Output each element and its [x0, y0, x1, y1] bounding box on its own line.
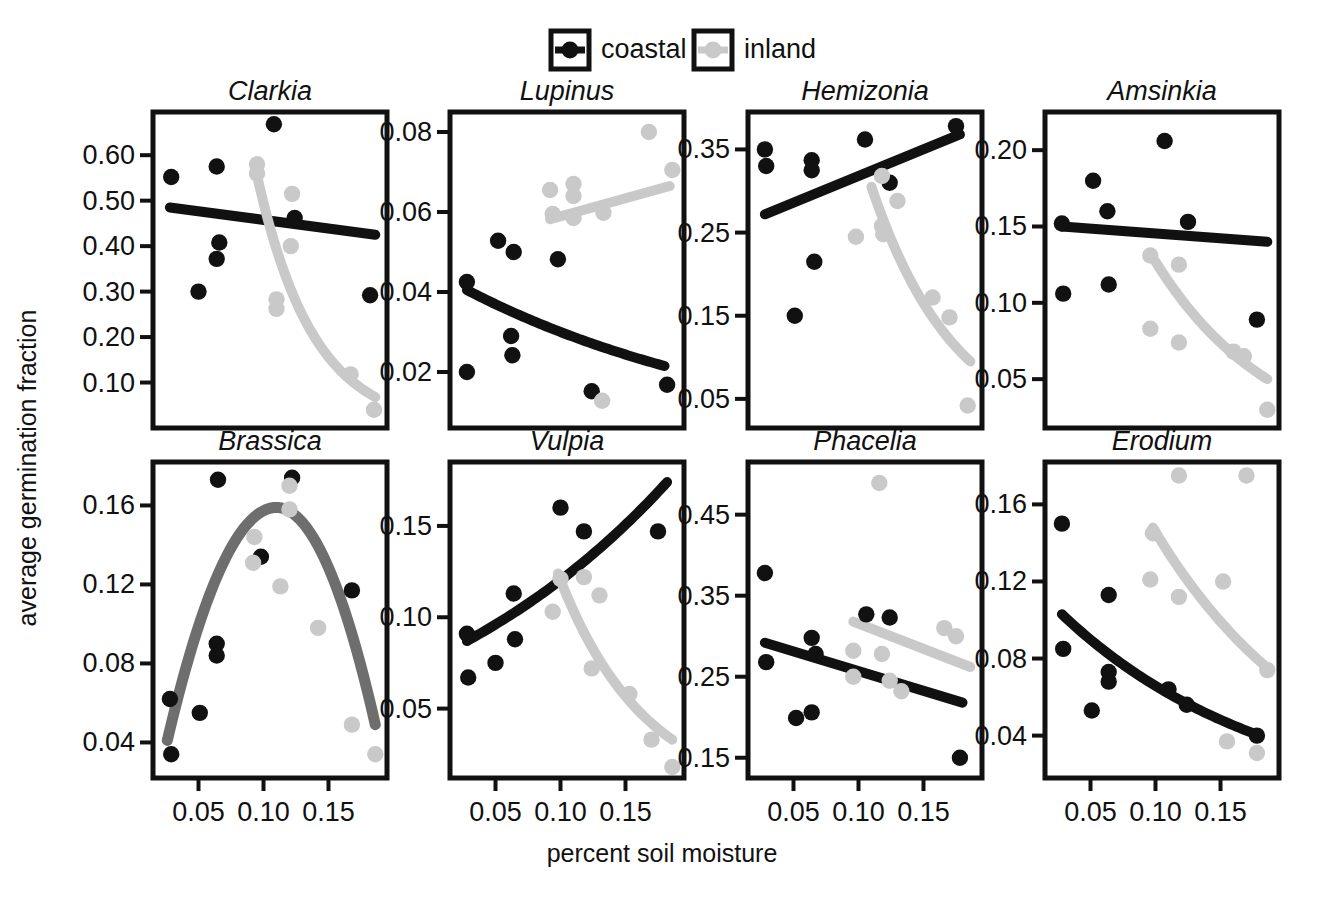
- data-point: [1171, 589, 1187, 605]
- y-tick-label: 0.05: [677, 384, 730, 414]
- data-point: [924, 289, 940, 305]
- data-point: [545, 206, 561, 222]
- y-tick-label: 0.15: [379, 511, 432, 541]
- x-tick-label: 0.10: [1129, 797, 1182, 827]
- data-point: [758, 158, 774, 174]
- y-tick-label: 0.12: [974, 566, 1027, 596]
- data-point: [209, 251, 225, 267]
- y-tick-label: 0.35: [677, 134, 730, 164]
- panel-title: Erodium: [1112, 426, 1213, 456]
- data-point: [960, 397, 976, 413]
- data-point: [1259, 401, 1275, 417]
- y-tick-label: 0.10: [974, 288, 1027, 318]
- data-point: [211, 234, 227, 250]
- data-point: [584, 660, 600, 676]
- legend-key-point: [562, 42, 579, 59]
- data-point: [1085, 173, 1101, 189]
- data-point: [552, 571, 568, 587]
- y-tick-label: 0.20: [82, 322, 135, 352]
- y-tick-label: 0.25: [677, 662, 730, 692]
- y-tick-label: 0.16: [974, 489, 1027, 519]
- x-tick-label: 0.10: [832, 797, 885, 827]
- data-point: [503, 328, 519, 344]
- y-tick-label: 0.12: [82, 569, 135, 599]
- data-point: [871, 475, 887, 491]
- data-point: [1249, 727, 1265, 743]
- data-point: [845, 669, 861, 685]
- y-tick-label: 0.30: [82, 277, 135, 307]
- data-point: [889, 193, 905, 209]
- legend-item-inland[interactable]: inland: [694, 31, 816, 69]
- y-tick-label: 0.08: [82, 648, 135, 678]
- data-point: [1055, 285, 1071, 301]
- y-tick-label: 0.60: [82, 140, 135, 170]
- data-point: [210, 472, 226, 488]
- data-point: [948, 118, 964, 134]
- y-tick-label: 0.04: [82, 727, 135, 757]
- data-point: [1160, 681, 1176, 697]
- data-point: [245, 555, 261, 571]
- data-point: [249, 165, 265, 181]
- data-point: [459, 274, 475, 290]
- data-point: [857, 131, 873, 147]
- x-tick-label: 0.05: [172, 797, 225, 827]
- data-point: [1171, 334, 1187, 350]
- data-point: [875, 226, 891, 242]
- data-point: [284, 186, 300, 202]
- x-tick-label: 0.15: [302, 797, 355, 827]
- data-point: [1142, 321, 1158, 337]
- data-point: [342, 366, 358, 382]
- y-tick-label: 0.25: [677, 218, 730, 248]
- data-point: [490, 233, 506, 249]
- data-point: [576, 523, 592, 539]
- data-point: [366, 402, 382, 418]
- panel-title: Brassica: [218, 426, 322, 456]
- legend-item-coastal[interactable]: coastal: [551, 31, 687, 69]
- data-point: [952, 750, 968, 766]
- x-axis-title: percent soil moisture: [547, 839, 778, 867]
- x-tick-label: 0.05: [1064, 797, 1117, 827]
- data-point: [1099, 203, 1115, 219]
- panel-title: Hemizonia: [801, 76, 929, 106]
- data-point: [1101, 587, 1117, 603]
- plot-area: [748, 112, 982, 428]
- data-point: [1142, 571, 1158, 587]
- data-point: [268, 301, 284, 317]
- data-point: [804, 630, 820, 646]
- data-point: [310, 620, 326, 636]
- data-point: [565, 188, 581, 204]
- y-tick-label: 0.05: [379, 694, 432, 724]
- data-point: [504, 347, 520, 363]
- data-point: [874, 646, 890, 662]
- y-tick-label: 0.02: [379, 357, 432, 387]
- data-point: [1156, 133, 1172, 149]
- data-point: [1145, 525, 1161, 541]
- data-point: [804, 704, 820, 720]
- legend-key-point: [705, 42, 722, 59]
- data-point: [1238, 467, 1254, 483]
- data-point: [344, 582, 360, 598]
- data-point: [163, 746, 179, 762]
- panel-title: Phacelia: [813, 426, 917, 456]
- data-point: [1142, 247, 1158, 263]
- data-point: [460, 669, 476, 685]
- data-point: [272, 578, 288, 594]
- data-point: [1180, 214, 1196, 230]
- data-point: [506, 585, 522, 601]
- data-point: [1236, 348, 1252, 364]
- data-point: [650, 523, 666, 539]
- data-point: [641, 124, 657, 140]
- y-tick-label: 0.08: [379, 117, 432, 147]
- data-point: [858, 606, 874, 622]
- y-tick-label: 0.15: [974, 211, 1027, 241]
- data-point: [246, 529, 262, 545]
- x-tick-label: 0.15: [1194, 797, 1247, 827]
- x-tick-label: 0.15: [897, 797, 950, 827]
- y-tick-label: 0.20: [974, 135, 1027, 165]
- legend-label-coastal: coastal: [601, 34, 687, 64]
- data-point: [893, 683, 909, 699]
- data-point: [459, 626, 475, 642]
- data-point: [788, 710, 804, 726]
- data-point: [621, 686, 637, 702]
- data-point: [281, 501, 297, 517]
